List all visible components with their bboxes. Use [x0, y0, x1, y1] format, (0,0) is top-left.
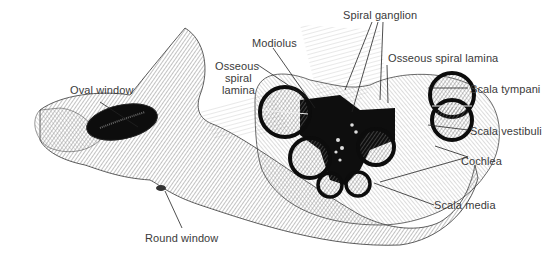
label-osseous-spiral-lamina-left-2: spiral — [225, 72, 252, 84]
label-scala-media: Scala media — [434, 199, 496, 211]
label-oval-window: Oval window — [70, 84, 133, 96]
label-osseous-spiral-lamina-left-1: Osseous — [215, 60, 259, 72]
label-scala-vestibuli: Scala vestibuli — [470, 125, 542, 137]
label-scala-tympani: Scala tympani — [470, 83, 540, 95]
label-osseous-spiral-lamina-right: Osseous spiral lamina — [388, 52, 498, 64]
label-spiral-ganglion: Spiral ganglion — [343, 9, 417, 21]
label-osseous-spiral-lamina-left-3: lamina — [222, 84, 255, 96]
cochlea-diagram: Spiral ganglion Modiolus Osseous spiral … — [0, 0, 557, 255]
label-modiolus: Modiolus — [252, 37, 297, 49]
label-cochlea: Cochlea — [461, 155, 502, 167]
label-round-window: Round window — [145, 232, 218, 244]
round-window — [156, 185, 166, 191]
